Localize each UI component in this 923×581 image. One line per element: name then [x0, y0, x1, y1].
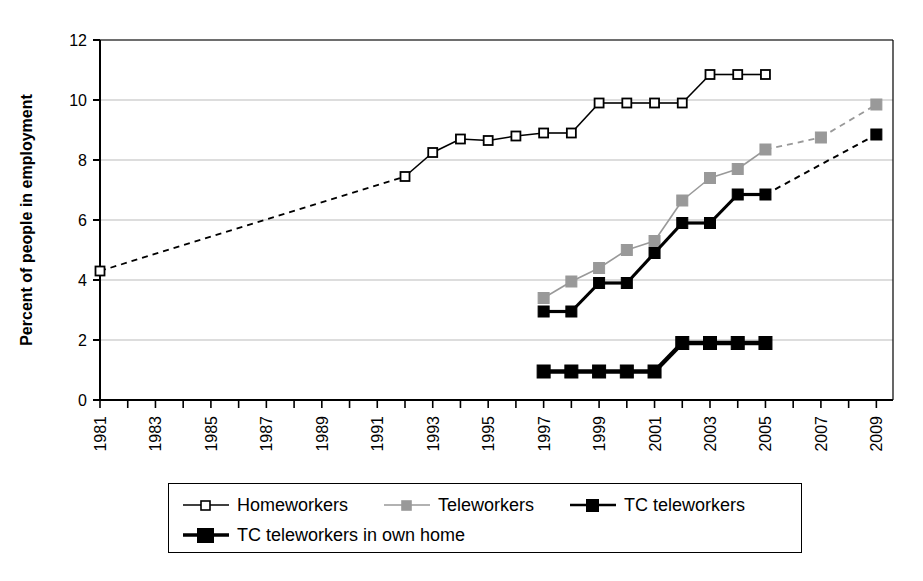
x-tick-label: 1981: [92, 416, 109, 452]
series-marker: [649, 248, 660, 259]
series-marker: [678, 99, 687, 108]
plot-area: 0246810121981198319851987198919911993199…: [0, 0, 923, 470]
series-marker: [537, 365, 550, 378]
series-marker: [760, 189, 771, 200]
series-marker: [511, 132, 520, 141]
series-marker: [622, 99, 631, 108]
legend-item-homeworkers[interactable]: Homeworkers: [183, 495, 348, 516]
y-tick-label: 6: [78, 212, 87, 229]
x-tick-label: 1999: [591, 416, 608, 452]
series-marker: [456, 135, 465, 144]
legend-row-1: Homeworkers Teleworkers TC teleworkers: [183, 490, 791, 520]
series-marker: [538, 306, 549, 317]
series-marker: [706, 70, 715, 79]
series-marker: [871, 129, 882, 140]
series-marker: [96, 267, 105, 276]
series-marker: [648, 365, 661, 378]
y-tick-label: 10: [69, 92, 87, 109]
y-tick-label: 8: [78, 152, 87, 169]
series-marker: [428, 148, 437, 157]
series-marker: [815, 132, 826, 143]
legend-item-tc-teleworkers-own-home[interactable]: TC teleworkers in own home: [183, 525, 465, 546]
series-marker: [539, 129, 548, 138]
legend-key-teleworkers: [384, 496, 430, 514]
y-tick-label: 2: [78, 332, 87, 349]
x-tick-label: 2001: [647, 416, 664, 452]
series-marker: [401, 172, 410, 181]
series-line-segment: [100, 177, 405, 272]
x-tick-label: 1997: [536, 416, 553, 452]
legend-row-2: TC teleworkers in own home: [183, 520, 791, 550]
x-tick-label: 1989: [314, 416, 331, 452]
x-tick-label: 2007: [813, 416, 830, 452]
x-tick-label: 2009: [868, 416, 885, 452]
series-marker: [732, 189, 743, 200]
x-tick-label: 2003: [702, 416, 719, 452]
series-marker: [594, 278, 605, 289]
series-line-segment: [765, 138, 820, 150]
y-tick-label: 12: [69, 32, 87, 49]
series-marker: [705, 173, 716, 184]
chart-svg: 0246810121981198319851987198919911993199…: [0, 0, 923, 470]
legend-label-tc-teleworkers-own-home: TC teleworkers in own home: [237, 525, 465, 546]
legend-key-tc-teleworkers-own-home: [183, 526, 229, 544]
series-marker: [484, 136, 493, 145]
legend-item-teleworkers[interactable]: Teleworkers: [384, 495, 534, 516]
series-marker: [677, 195, 688, 206]
series-marker: [593, 365, 606, 378]
chart-root: Percent of people in employment 02468101…: [0, 0, 923, 581]
legend-label-tc-teleworkers: TC teleworkers: [624, 495, 745, 516]
series-marker: [567, 129, 576, 138]
series-marker: [871, 99, 882, 110]
legend-label-teleworkers: Teleworkers: [438, 495, 534, 516]
series-marker: [566, 306, 577, 317]
series-marker: [705, 218, 716, 229]
series-line-segment: [821, 105, 876, 138]
chart-legend: Homeworkers Teleworkers TC teleworkers: [168, 483, 802, 553]
series-marker: [704, 337, 717, 350]
x-tick-label: 1987: [258, 416, 275, 452]
x-tick-label: 1991: [369, 416, 386, 452]
legend-key-homeworkers: [183, 496, 229, 514]
series-marker: [733, 70, 742, 79]
series-marker: [732, 164, 743, 175]
x-tick-label: 2005: [757, 416, 774, 452]
y-tick-label: 4: [78, 272, 87, 289]
series-marker: [621, 278, 632, 289]
series-marker: [649, 236, 660, 247]
legend-key-tc-teleworkers: [570, 496, 616, 514]
series-marker: [565, 365, 578, 378]
legend-label-homeworkers: Homeworkers: [237, 495, 348, 516]
series-marker: [566, 276, 577, 287]
series-marker: [650, 99, 659, 108]
x-tick-label: 1993: [425, 416, 442, 452]
series-marker: [676, 337, 689, 350]
series-marker: [731, 337, 744, 350]
x-tick-label: 1985: [203, 416, 220, 452]
series-marker: [538, 293, 549, 304]
series-marker: [760, 144, 771, 155]
series-marker: [759, 337, 772, 350]
series-marker: [677, 218, 688, 229]
series-marker: [761, 70, 770, 79]
series-marker: [595, 99, 604, 108]
series-marker: [594, 263, 605, 274]
legend-item-tc-teleworkers[interactable]: TC teleworkers: [570, 495, 745, 516]
x-tick-label: 1995: [480, 416, 497, 452]
x-tick-label: 1983: [147, 416, 164, 452]
series-marker: [620, 365, 633, 378]
series-marker: [621, 245, 632, 256]
y-tick-label: 0: [78, 392, 87, 409]
